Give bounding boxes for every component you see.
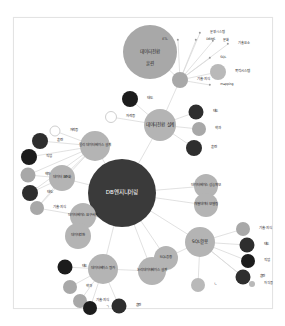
graph-node-attitude_r2[interactable] (240, 238, 255, 253)
graph-node-job_r2[interactable] (241, 254, 255, 268)
graph-node-physical_db_design[interactable] (80, 131, 110, 161)
graph-node-dept_b1[interactable] (63, 280, 77, 294)
graph-node-db_evaluation[interactable] (88, 254, 118, 284)
graph-node-job_b1[interactable] (83, 301, 97, 315)
graph-node-attitude_b1[interactable] (58, 260, 73, 275)
graph-node-cert_top[interactable] (105, 111, 117, 123)
graph-node-db_engineering[interactable] (88, 159, 156, 227)
graph-node-req_analysis[interactable] (191, 278, 205, 292)
graph-node-skill_knowledge_top[interactable] (172, 72, 188, 88)
graph-node-conversion_design[interactable] (144, 109, 176, 141)
graph-node-dept_r1[interactable] (192, 122, 206, 136)
graph-node-data_conversion_top[interactable] (123, 25, 177, 79)
graph-node-job_l1[interactable] (21, 149, 37, 165)
graph-node-attitude_r1[interactable] (189, 105, 204, 120)
graph-node-training_b1[interactable] (112, 299, 127, 314)
graph-node-skill_l1[interactable] (30, 201, 44, 215)
graph-node-data_conversion_l[interactable] (65, 223, 91, 249)
graph-node-sql_usage[interactable] (185, 227, 215, 257)
graph-node-attitude_l1[interactable] (22, 185, 38, 201)
graph-node-data_standard[interactable] (49, 165, 75, 191)
graph-node-training_r1[interactable] (186, 140, 202, 156)
graph-node-attitude_top[interactable] (122, 91, 138, 107)
graph-node-dept_l1[interactable] (21, 168, 36, 183)
graph-node-sql_application[interactable] (154, 246, 178, 270)
graph-node-cert_r2[interactable] (249, 281, 255, 287)
graph-node-data_modeling[interactable] (194, 193, 218, 217)
graph-node-target_system[interactable] (210, 64, 226, 80)
graph-node-skill_r2[interactable] (236, 222, 250, 236)
graph-node-cert_l1[interactable] (50, 126, 61, 137)
network-graph-figure: DB엔지니어링데이터전환훈련기술·지식목적시스템ETLDBMS운영시스템문화기술… (0, 0, 285, 326)
graph-node-training_l1[interactable] (32, 133, 48, 149)
